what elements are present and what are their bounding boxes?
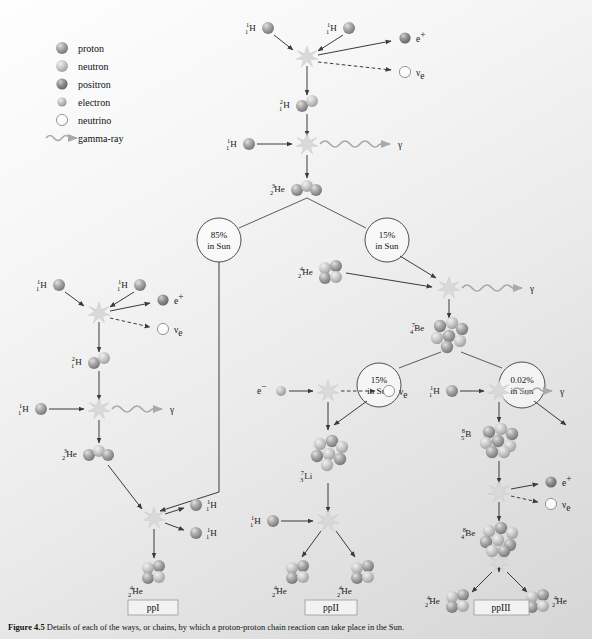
particle-label-neutrino: νe (399, 387, 408, 400)
arrow-to-positron (110, 303, 150, 311)
arrow-to-positron (318, 41, 391, 55)
nuclide-label-h1: 11H (18, 402, 29, 416)
branch-line-ppI (239, 198, 307, 228)
fusion-starburst-icon (88, 302, 110, 323)
nuclide-label-he4: 42He (552, 594, 567, 608)
nuclide-label-he4: 42He (298, 265, 313, 279)
gamma-ray-wave (462, 285, 512, 291)
fusion-starburst-icon (296, 46, 318, 67)
sphere-neutrino (157, 323, 168, 334)
particle-label-positron: e+ (562, 474, 572, 488)
sphere-neutrino (383, 385, 394, 396)
nuclide-spheres-h2 (296, 95, 318, 112)
arrow-he3-to-merge (108, 465, 142, 509)
sphere-proton (35, 403, 47, 415)
nuclide-label-he4: 42He (128, 584, 143, 598)
branch-line-ppII-ppIII (307, 198, 366, 228)
nuclide-label-he3: 32He (270, 182, 285, 196)
nuclide-spheres-h2 (88, 352, 110, 369)
branch-line-ppIII (461, 352, 502, 368)
legend-swatch-gamma-ray (46, 136, 70, 141)
nuclide-spheres-he4 (351, 560, 374, 584)
fusion-starburst-icon (296, 133, 318, 154)
fusion-starburst-icon (488, 481, 510, 502)
arrow-to-ppII (334, 401, 367, 425)
arrow-to-ppIII (534, 401, 566, 425)
nuclide-label-he3: 32He (62, 447, 77, 461)
particle-label-gamma: γ (397, 140, 402, 150)
particle-label-gamma: γ (169, 405, 174, 415)
particle-label-neutrino: νe (562, 500, 571, 513)
nuclide-label-h1: 11H (429, 384, 440, 398)
arrow-to-h1-product (165, 523, 184, 530)
branch-badge-85: 85% in Sun (197, 218, 241, 262)
fusion-starburst-icon (438, 277, 460, 298)
arrow-h1-to-fusion (65, 292, 84, 306)
gamma-ray-wave (320, 141, 380, 147)
sphere-proton (190, 499, 202, 511)
nuclide-label-be8: 84Be (461, 526, 475, 540)
nuclide-label-he4: 42He (272, 584, 287, 598)
legend-swatch-electron (57, 97, 66, 106)
arrow-15-to-be7 (400, 256, 436, 278)
particle-label-positron: e+ (174, 292, 184, 306)
legend: proton neutron positron electron neutrin… (46, 42, 124, 144)
gamma-ray-wave (112, 406, 152, 412)
branch-percent-85: 85% (211, 230, 228, 240)
sphere-positron (545, 476, 556, 487)
sphere-electron (276, 386, 286, 396)
sphere-proton (267, 515, 279, 527)
arrow-to-he4-right (336, 531, 355, 557)
nuclide-spheres-he4 (286, 560, 309, 584)
legend-swatch-neutron (56, 60, 68, 72)
reaction-top-he3: 11H γ 32He (226, 133, 402, 196)
particle-label-neutrino: νe (174, 325, 183, 338)
sphere-proton (446, 385, 458, 397)
branch-split-he3: 85% in Sun 15% in Sun (160, 198, 436, 511)
chain-ppI: 11H 11H e+ νe 21H (18, 278, 217, 615)
sphere-neutrino (545, 498, 556, 509)
nuclide-spheres-he4 (142, 560, 165, 584)
legend-label-electron: electron (78, 97, 110, 108)
branch-percent-002: 0.02% (510, 375, 534, 385)
particle-label-gamma: γ (529, 284, 534, 294)
fusion-starburst-icon (317, 510, 339, 531)
arrow-h1-to-fusion (110, 292, 134, 307)
arrow-to-he4-left (302, 531, 321, 557)
arrow-to-neutrino (110, 318, 150, 327)
arrow-to-neutrino (318, 62, 391, 70)
nuclide-label-h2: 21H (71, 355, 82, 369)
arrow-to-neutrino (511, 496, 538, 502)
nuclide-label-h1: 11H (117, 278, 128, 292)
arrow-he4-to-fusion (346, 273, 432, 287)
sphere-neutrino (399, 66, 410, 77)
nuclide-label-h1: 11H (206, 526, 217, 540)
fusion-starburst-icon (317, 380, 339, 401)
particle-label-neutrino: νe (416, 68, 425, 81)
sphere-proton (134, 279, 146, 291)
nuclide-label-be7: 74Be (410, 321, 424, 335)
branch-badge-15b: 15% in Sun (357, 363, 401, 407)
sphere-proton (53, 279, 65, 291)
branch-insun-15: in Sun (375, 241, 399, 251)
particle-label-positron: e+ (416, 30, 426, 44)
routed-line-85-to-ppI (160, 262, 219, 511)
figure-caption: Figure 4.5 Details of each of the ways, … (8, 622, 586, 639)
nuclide-spheres-he3 (83, 445, 114, 461)
legend-label-positron: positron (78, 79, 111, 90)
fusion-starburst-icon (88, 398, 110, 419)
nuclide-label-h2: 21H (279, 98, 290, 112)
pp-chain-diagram: proton neutron positron electron neutrin… (0, 0, 592, 639)
legend-label-gamma-ray: gamma-ray (78, 133, 124, 144)
nuclide-label-h1: 11H (36, 278, 47, 292)
nuclide-label-h1: 11H (250, 514, 261, 528)
nuclide-spheres-he4 (526, 589, 549, 613)
nuclide-label-h1: 11H (226, 137, 237, 151)
caption-number: Figure 4.5 (8, 622, 45, 632)
branch-line-ppII (399, 352, 441, 368)
nuclide-spheres-li7 (311, 435, 348, 471)
nuclide-spheres-he4 (319, 260, 342, 284)
nuclide-label-h1: 11H (206, 498, 217, 512)
sphere-positron (399, 32, 410, 43)
legend-label-neutrino: neutrino (78, 115, 111, 126)
